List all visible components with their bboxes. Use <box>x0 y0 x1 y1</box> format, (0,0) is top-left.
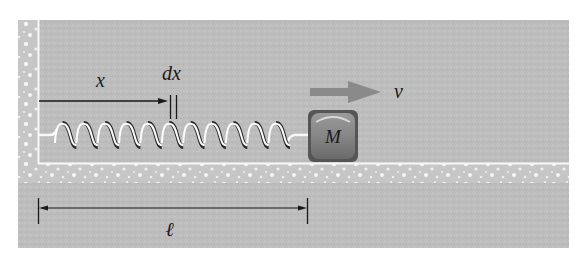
spring-mass-diagram: x dx v M ℓ <box>0 0 581 256</box>
length-label: ℓ <box>166 218 175 240</box>
wall <box>18 20 38 183</box>
x-label: x <box>95 69 105 91</box>
velocity-label: v <box>394 80 403 102</box>
panel-background <box>18 20 569 248</box>
floor <box>18 163 569 183</box>
dx-label: dx <box>162 62 181 84</box>
mass-label: M <box>324 126 342 147</box>
